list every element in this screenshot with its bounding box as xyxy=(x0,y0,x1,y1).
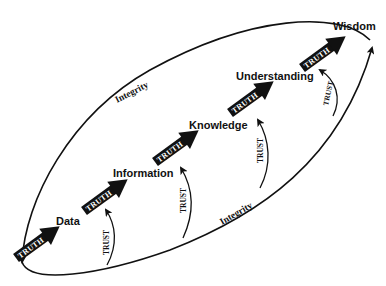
dikw-diagram: Integrity Integrity Data Information Kno… xyxy=(0,0,386,286)
trust-label: TRUST xyxy=(179,188,188,213)
trust-arrow-2: TRUST xyxy=(179,168,191,238)
truth-label: TRUTH xyxy=(16,235,46,260)
trust-arrow-4: TRUST xyxy=(320,70,337,116)
stage-wisdom: Wisdom xyxy=(333,20,376,32)
stage-data: Data xyxy=(56,215,81,227)
trust-arrow-1: TRUST xyxy=(102,210,114,265)
trust-label: TRUST xyxy=(321,80,335,106)
integrity-label-lower: Integrity xyxy=(218,200,254,227)
integrity-label-upper: Integrity xyxy=(113,79,150,104)
trust-label: TRUST xyxy=(256,138,265,163)
stage-understanding: Understanding xyxy=(236,70,314,82)
truth-label: TRUTH xyxy=(230,90,260,115)
truth-arrow-5: TRUTH xyxy=(296,28,351,76)
truth-label: TRUTH xyxy=(84,188,114,213)
stage-information: Information xyxy=(113,167,174,179)
truth-label: TRUTH xyxy=(155,139,185,164)
trust-arrow-3: TRUST xyxy=(256,120,268,188)
trust-label: TRUST xyxy=(102,230,111,255)
truth-label: TRUTH xyxy=(302,45,332,70)
stage-knowledge: Knowledge xyxy=(189,119,248,131)
